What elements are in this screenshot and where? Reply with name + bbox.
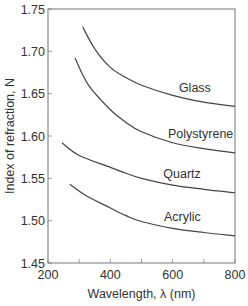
x-axis-tick-labels: 200400600800: [38, 268, 246, 282]
series-label-quartz: Quartz: [163, 167, 201, 181]
x-tick-label: 800: [225, 268, 246, 282]
series-label-acrylic: Acrylic: [164, 210, 201, 224]
y-axis-tick-labels: 1.451.501.551.601.651.701.75: [21, 3, 45, 271]
x-axis-title: Wavelength, λ (nm): [88, 287, 196, 301]
series-labels: GlassPolystyreneQuartzAcrylic: [163, 81, 233, 224]
y-tick-label: 1.70: [21, 45, 45, 59]
y-tick-label: 1.65: [21, 87, 45, 101]
y-tick-label: 1.55: [21, 172, 45, 186]
x-tick-label: 600: [162, 268, 183, 282]
curve-glass: [83, 27, 235, 107]
y-tick-label: 1.60: [21, 130, 45, 144]
y-axis-title: Index of refraction, N: [3, 78, 17, 194]
series-label-glass: Glass: [179, 81, 211, 95]
series-label-polystyrene: Polystyrene: [168, 127, 233, 141]
curve-acrylic: [70, 184, 235, 236]
x-tick-label: 200: [38, 268, 59, 282]
y-tick-label: 1.75: [21, 3, 45, 17]
curve-quartz: [62, 143, 235, 193]
refractive-index-chart: 1.451.501.551.601.651.701.75 20040060080…: [0, 0, 248, 306]
x-tick-label: 400: [100, 268, 121, 282]
chart-canvas: 1.451.501.551.601.651.701.75 20040060080…: [0, 0, 248, 306]
y-tick-label: 1.50: [21, 214, 45, 228]
